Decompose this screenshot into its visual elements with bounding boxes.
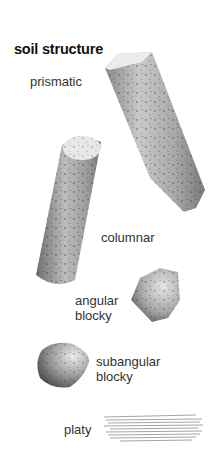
angular-blocky-illustration bbox=[131, 268, 180, 322]
soil-structure-illustrations bbox=[0, 0, 215, 455]
prismatic-illustration bbox=[105, 52, 205, 212]
subangular-blocky-illustration bbox=[37, 343, 89, 388]
platy-illustration bbox=[104, 415, 203, 441]
columnar-illustration bbox=[36, 136, 101, 284]
